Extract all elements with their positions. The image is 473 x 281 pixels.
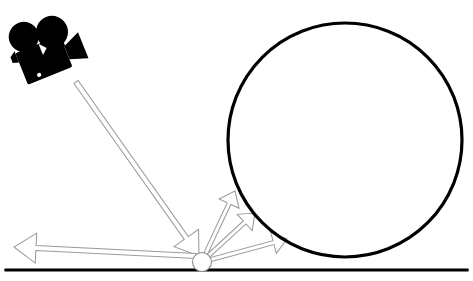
large-circle [228, 23, 462, 257]
ray-diagram-canvas [0, 0, 473, 281]
incident-ray [74, 81, 199, 256]
movie-camera-icon [0, 3, 89, 87]
intersection-point [193, 253, 212, 272]
ray-layer [14, 81, 287, 264]
reflected-ray-left [14, 233, 196, 263]
